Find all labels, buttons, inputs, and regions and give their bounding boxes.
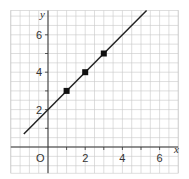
y-tick-label: 4 xyxy=(36,66,42,78)
y-axis-label: y xyxy=(39,8,45,20)
x-axis-label: x xyxy=(173,143,179,155)
x-tick-label: 6 xyxy=(157,152,163,164)
data-point xyxy=(64,88,70,94)
x-tick-label: 4 xyxy=(119,152,125,164)
tick-labels: 246246 xyxy=(36,29,163,164)
data-point xyxy=(101,51,107,57)
y-tick-label: 6 xyxy=(36,29,42,41)
x-tick-label: 2 xyxy=(82,152,88,164)
origin-label: O xyxy=(36,152,45,164)
y-tick-label: 2 xyxy=(36,104,42,116)
coordinate-graph: 246246 x y O xyxy=(0,0,189,179)
data-point xyxy=(82,69,88,75)
